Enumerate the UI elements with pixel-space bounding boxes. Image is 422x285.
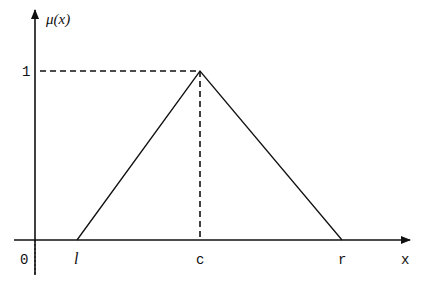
origin-label: 0: [20, 252, 28, 268]
point-l-label: l: [74, 250, 79, 267]
y-axis-label: μ(x): [45, 11, 70, 28]
x-axis-label: x: [401, 252, 409, 268]
y-tick-one-label: 1: [22, 64, 30, 80]
membership-function-diagram: μ(x) 1 0 l c r x: [0, 0, 422, 285]
point-c-label: c: [196, 252, 204, 268]
triangular-membership-curve: [77, 71, 342, 240]
point-r-label: r: [338, 252, 346, 268]
